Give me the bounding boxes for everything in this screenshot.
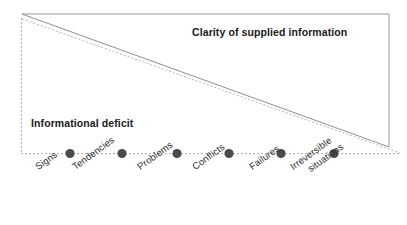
milestone-dot[interactable]: [65, 149, 74, 158]
milestone-dot[interactable]: [172, 149, 181, 158]
diagram-canvas: Clarity of supplied information Informat…: [0, 0, 407, 225]
clarity-of-supplied-information-label: Clarity of supplied information: [192, 26, 347, 38]
milestone-dot[interactable]: [117, 149, 126, 158]
deficit-boundary-line: [22, 19, 400, 153]
informational-deficit-label: Informational deficit: [31, 117, 133, 129]
